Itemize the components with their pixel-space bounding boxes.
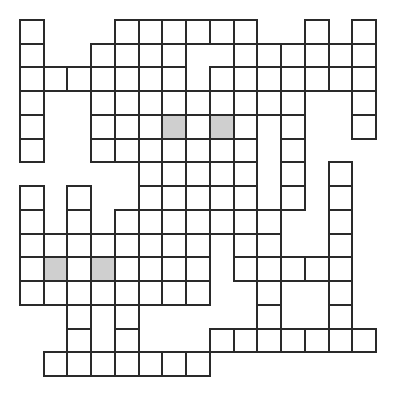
grid-cell[interactable] xyxy=(66,66,92,92)
grid-cell[interactable] xyxy=(185,185,211,211)
grid-cell[interactable] xyxy=(90,90,116,116)
grid-cell[interactable] xyxy=(161,90,187,116)
grid-cell[interactable] xyxy=(280,114,306,140)
grid-cell[interactable] xyxy=(233,43,259,69)
grid-cell[interactable] xyxy=(304,256,330,282)
grid-cell[interactable] xyxy=(209,328,235,354)
grid-cell[interactable] xyxy=(233,114,259,140)
shaded-grid-cell[interactable] xyxy=(209,114,235,140)
grid-cell[interactable] xyxy=(185,161,211,187)
grid-cell[interactable] xyxy=(161,43,187,69)
grid-cell[interactable] xyxy=(161,209,187,235)
grid-cell[interactable] xyxy=(43,351,69,377)
grid-cell[interactable] xyxy=(185,351,211,377)
grid-cell[interactable] xyxy=(138,138,164,164)
grid-cell[interactable] xyxy=(351,328,377,354)
grid-cell[interactable] xyxy=(114,233,140,259)
grid-cell[interactable] xyxy=(138,90,164,116)
grid-cell[interactable] xyxy=(256,304,282,330)
grid-cell[interactable] xyxy=(280,66,306,92)
grid-cell[interactable] xyxy=(161,66,187,92)
grid-cell[interactable] xyxy=(90,138,116,164)
grid-cell[interactable] xyxy=(43,280,69,306)
grid-cell[interactable] xyxy=(328,185,354,211)
grid-cell[interactable] xyxy=(351,90,377,116)
grid-cell[interactable] xyxy=(161,233,187,259)
grid-cell[interactable] xyxy=(114,328,140,354)
grid-cell[interactable] xyxy=(161,19,187,45)
grid-cell[interactable] xyxy=(304,43,330,69)
grid-cell[interactable] xyxy=(185,280,211,306)
grid-cell[interactable] xyxy=(114,66,140,92)
grid-cell[interactable] xyxy=(114,43,140,69)
grid-cell[interactable] xyxy=(138,185,164,211)
grid-cell[interactable] xyxy=(19,66,45,92)
grid-cell[interactable] xyxy=(351,19,377,45)
shaded-grid-cell[interactable] xyxy=(161,114,187,140)
grid-cell[interactable] xyxy=(90,66,116,92)
grid-cell[interactable] xyxy=(280,328,306,354)
grid-cell[interactable] xyxy=(114,304,140,330)
grid-cell[interactable] xyxy=(114,351,140,377)
grid-cell[interactable] xyxy=(304,328,330,354)
grid-cell[interactable] xyxy=(280,138,306,164)
grid-cell[interactable] xyxy=(138,19,164,45)
grid-cell[interactable] xyxy=(256,90,282,116)
grid-cell[interactable] xyxy=(328,66,354,92)
grid-cell[interactable] xyxy=(280,256,306,282)
grid-cell[interactable] xyxy=(19,114,45,140)
grid-cell[interactable] xyxy=(114,256,140,282)
grid-cell[interactable] xyxy=(256,43,282,69)
grid-cell[interactable] xyxy=(90,233,116,259)
grid-cell[interactable] xyxy=(256,233,282,259)
grid-cell[interactable] xyxy=(256,280,282,306)
grid-cell[interactable] xyxy=(66,304,92,330)
grid-cell[interactable] xyxy=(233,209,259,235)
grid-cell[interactable] xyxy=(185,233,211,259)
grid-cell[interactable] xyxy=(138,280,164,306)
grid-cell[interactable] xyxy=(328,161,354,187)
grid-cell[interactable] xyxy=(328,304,354,330)
grid-cell[interactable] xyxy=(138,233,164,259)
grid-cell[interactable] xyxy=(233,185,259,211)
grid-cell[interactable] xyxy=(233,90,259,116)
grid-cell[interactable] xyxy=(185,138,211,164)
grid-cell[interactable] xyxy=(209,209,235,235)
grid-cell[interactable] xyxy=(66,256,92,282)
grid-cell[interactable] xyxy=(161,280,187,306)
grid-cell[interactable] xyxy=(233,256,259,282)
grid-cell[interactable] xyxy=(90,43,116,69)
grid-cell[interactable] xyxy=(280,161,306,187)
grid-cell[interactable] xyxy=(161,256,187,282)
grid-cell[interactable] xyxy=(185,256,211,282)
grid-cell[interactable] xyxy=(114,90,140,116)
grid-cell[interactable] xyxy=(328,233,354,259)
grid-cell[interactable] xyxy=(185,90,211,116)
grid-cell[interactable] xyxy=(19,90,45,116)
grid-cell[interactable] xyxy=(233,19,259,45)
grid-cell[interactable] xyxy=(19,256,45,282)
grid-cell[interactable] xyxy=(233,328,259,354)
grid-cell[interactable] xyxy=(280,185,306,211)
grid-cell[interactable] xyxy=(256,256,282,282)
grid-cell[interactable] xyxy=(66,209,92,235)
grid-cell[interactable] xyxy=(233,66,259,92)
grid-cell[interactable] xyxy=(138,256,164,282)
grid-cell[interactable] xyxy=(138,43,164,69)
grid-cell[interactable] xyxy=(280,90,306,116)
grid-cell[interactable] xyxy=(328,328,354,354)
grid-cell[interactable] xyxy=(304,19,330,45)
grid-cell[interactable] xyxy=(185,209,211,235)
grid-cell[interactable] xyxy=(351,66,377,92)
grid-cell[interactable] xyxy=(43,66,69,92)
grid-cell[interactable] xyxy=(138,161,164,187)
grid-cell[interactable] xyxy=(328,256,354,282)
grid-cell[interactable] xyxy=(43,233,69,259)
grid-cell[interactable] xyxy=(19,43,45,69)
grid-cell[interactable] xyxy=(19,209,45,235)
grid-cell[interactable] xyxy=(161,138,187,164)
grid-cell[interactable] xyxy=(328,43,354,69)
grid-cell[interactable] xyxy=(209,138,235,164)
grid-cell[interactable] xyxy=(90,114,116,140)
grid-cell[interactable] xyxy=(233,161,259,187)
